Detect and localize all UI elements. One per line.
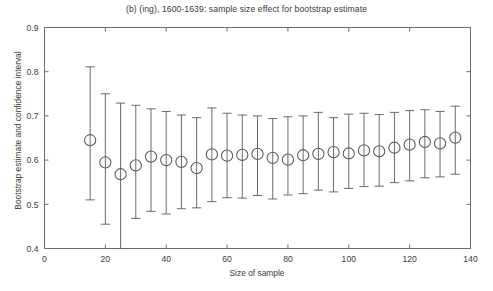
error-bar xyxy=(101,94,110,224)
error-bar xyxy=(329,118,338,192)
error-bar xyxy=(207,108,216,202)
error-bar xyxy=(359,113,368,186)
error-bar xyxy=(344,114,353,188)
x-tick-label: 60 xyxy=(222,254,232,264)
y-axis-ticks: 0.40.50.60.70.80.9 xyxy=(27,23,471,254)
y-tick-label: 0.6 xyxy=(27,155,39,165)
error-bar xyxy=(131,105,140,218)
x-tick-label: 20 xyxy=(101,254,111,264)
x-axis-ticks: 020406080100120140 xyxy=(42,28,478,264)
error-bar xyxy=(162,111,171,214)
y-tick-label: 0.4 xyxy=(27,244,39,254)
error-bar xyxy=(420,110,429,178)
error-bar xyxy=(146,109,155,212)
error-bar xyxy=(177,115,186,209)
x-tick-label: 120 xyxy=(402,254,417,264)
x-tick-label: 100 xyxy=(342,254,357,264)
x-tick-label: 140 xyxy=(463,254,478,264)
plot-canvas: 020406080100120140 0.40.50.60.70.80.9 xyxy=(0,0,493,291)
y-tick-label: 0.9 xyxy=(27,23,39,33)
error-bar xyxy=(222,113,231,197)
error-bar xyxy=(283,117,292,195)
error-bar-series xyxy=(86,67,460,249)
bootstrap-estimate-chart-figure: (b) (ing), 1600-1639: sample size effect… xyxy=(0,0,493,291)
x-tick-label: 0 xyxy=(42,254,47,264)
error-bar xyxy=(314,112,323,190)
x-tick-label: 40 xyxy=(161,254,171,264)
y-tick-label: 0.7 xyxy=(27,111,39,121)
error-bar xyxy=(375,115,384,187)
error-bar xyxy=(253,116,262,196)
error-bar xyxy=(299,116,308,194)
x-tick-label: 80 xyxy=(283,254,293,264)
error-bar xyxy=(451,106,460,174)
error-bar xyxy=(435,111,444,176)
error-bar xyxy=(238,115,247,198)
error-bar xyxy=(405,111,414,181)
error-bar xyxy=(116,103,125,248)
y-tick-label: 0.5 xyxy=(27,200,39,210)
y-tick-label: 0.8 xyxy=(27,67,39,77)
error-bar xyxy=(86,67,95,200)
error-bar xyxy=(390,112,399,182)
error-bar xyxy=(268,119,277,199)
